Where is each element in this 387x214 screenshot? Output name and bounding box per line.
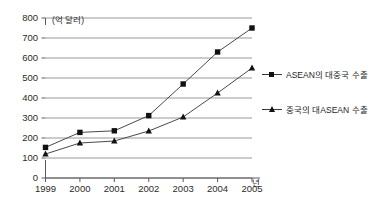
x-tick-label: 2001 — [97, 184, 131, 194]
y-tick-label: 700 — [8, 33, 38, 43]
legend-marker-triangle — [262, 105, 282, 114]
y-tick-label: 100 — [8, 153, 38, 163]
y-tick-label: 0 — [8, 173, 38, 183]
legend-label: 중국의 대ASEAN 수출 — [286, 103, 368, 115]
x-tick-label: 1999 — [29, 184, 63, 194]
x-tick-label: 2000 — [63, 184, 97, 194]
x-tick-label: 2004 — [201, 184, 235, 194]
x-tick-label: 2005 — [235, 184, 269, 194]
y-tick-label: 300 — [8, 113, 38, 123]
y-tick-label: 600 — [8, 53, 38, 63]
y-tick-label: 400 — [8, 93, 38, 103]
y-tick-label: 500 — [8, 73, 38, 83]
y-tick-label: 200 — [8, 133, 38, 143]
y-tick-label: 800 — [8, 13, 38, 23]
x-tick-label: 2003 — [166, 184, 200, 194]
line-chart-figure: (억 달러) 년 0100200300400500600700800 19992… — [0, 0, 387, 214]
legend-label: ASEAN의 대중국 수출 — [286, 68, 368, 80]
legend-marker-square — [262, 70, 282, 79]
x-tick-label: 2002 — [132, 184, 166, 194]
legend-item-china-exports-to-asean: 중국의 대ASEAN 수출 — [262, 103, 368, 115]
legend-item-asean-exports-to-china: ASEAN의 대중국 수출 — [262, 68, 368, 80]
y-axis-unit-label: (억 달러) — [52, 13, 84, 25]
